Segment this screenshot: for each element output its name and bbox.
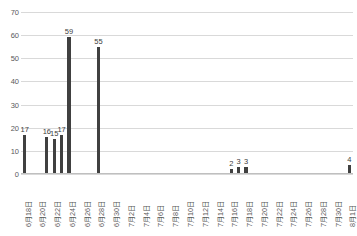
gridline-50 xyxy=(21,58,353,59)
x-tick-label: 7月26日 xyxy=(305,175,313,227)
bar xyxy=(60,135,63,174)
bar xyxy=(53,139,56,174)
bar xyxy=(67,37,70,174)
bar xyxy=(97,47,100,174)
gridline-40 xyxy=(21,81,353,82)
y-tick-label-60: 60 xyxy=(1,32,19,40)
x-tick-label: 7月30日 xyxy=(335,175,343,227)
x-tick-label: 7月12日 xyxy=(202,175,210,227)
x-axis: 6月18日6月20日6月22日6月24日6月26日6月28日6月30日7月2日7… xyxy=(21,175,353,236)
x-tick-label: 7月22日 xyxy=(276,175,284,227)
y-tick-label-10: 10 xyxy=(1,147,19,155)
bar-value-label: 17 xyxy=(21,126,29,134)
y-tick-label-70: 70 xyxy=(1,9,19,17)
x-axis-line xyxy=(21,173,353,174)
x-tick-label: 6月28日 xyxy=(98,175,106,227)
x-tick-label: 7月4日 xyxy=(143,175,151,227)
x-tick-label: 7月24日 xyxy=(290,175,298,227)
x-tick-label: 6月22日 xyxy=(54,175,62,227)
x-tick-label: 6月24日 xyxy=(69,175,77,227)
bar-value-label: 2 xyxy=(229,160,233,168)
y-axis: 010203040506070 xyxy=(0,12,19,174)
gridline-70 xyxy=(21,12,353,13)
y-tick-label-0: 0 xyxy=(1,171,19,179)
bar-value-label: 4 xyxy=(347,156,351,164)
bar-value-label: 55 xyxy=(94,38,102,46)
bar xyxy=(23,135,26,174)
x-tick-label: 7月14日 xyxy=(217,175,225,227)
x-tick-label: 7月6日 xyxy=(157,175,165,227)
bar xyxy=(45,137,48,174)
x-tick-label: 7月2日 xyxy=(128,175,136,227)
bar-value-label: 3 xyxy=(237,158,241,166)
y-tick-label-30: 30 xyxy=(1,101,19,109)
x-tick-label: 6月30日 xyxy=(113,175,121,227)
bar-value-label: 17 xyxy=(57,126,65,134)
x-tick-label: 7月18日 xyxy=(246,175,254,227)
x-tick-label: 6月18日 xyxy=(25,175,33,227)
x-tick-label: 7月20日 xyxy=(261,175,269,227)
gridline-30 xyxy=(21,105,353,106)
x-tick-label: 8月1日 xyxy=(349,175,357,227)
bar-value-label: 59 xyxy=(65,28,73,36)
plot-area: 1716151759552334 xyxy=(21,12,353,174)
y-tick-label-20: 20 xyxy=(1,124,19,132)
y-tick-label-40: 40 xyxy=(1,78,19,86)
bar-value-label: 3 xyxy=(244,158,248,166)
x-tick-label: 7月8日 xyxy=(172,175,180,227)
x-tick-label: 7月28日 xyxy=(320,175,328,227)
x-tick-label: 7月16日 xyxy=(231,175,239,227)
x-tick-label: 7月10日 xyxy=(187,175,195,227)
gridline-20 xyxy=(21,128,353,129)
gridline-10 xyxy=(21,151,353,152)
y-tick-label-50: 50 xyxy=(1,55,19,63)
x-tick-label: 6月26日 xyxy=(84,175,92,227)
x-tick-label: 6月20日 xyxy=(39,175,47,227)
